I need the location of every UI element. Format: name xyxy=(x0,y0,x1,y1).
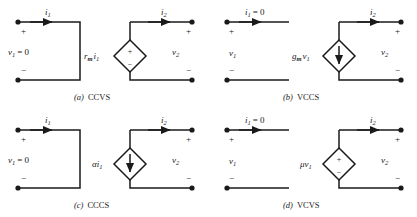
polarity-minus-right: − xyxy=(186,65,191,75)
vccs-right-port: i2 + − v2 xyxy=(339,7,404,83)
panel-vcvs: i1= 0 + − v1 i2 + − v2 + − μv1 (d)VCVS xyxy=(224,115,403,210)
caption-vccs: (b)VCCS xyxy=(283,92,319,102)
polarity-minus-right: − xyxy=(395,173,400,183)
terminal-dot-top-left xyxy=(224,19,229,24)
polarity-minus-left: − xyxy=(21,65,26,75)
terminal-dot-top-left xyxy=(224,127,229,132)
vccs-source-symbol: gmv1 xyxy=(292,40,355,72)
cccs-right-port: i2 + − v2 xyxy=(130,115,195,191)
terminal-dot-bottom-left xyxy=(224,185,229,190)
source-gain-label: μv1 xyxy=(299,159,312,170)
cccs-source-symbol: αi1 xyxy=(92,148,146,180)
output-wire-bottom xyxy=(339,180,401,188)
source-gain-label: gmv1 xyxy=(292,51,310,62)
ccvs-left-port: i1 + − v1= 0 xyxy=(8,7,80,83)
polarity-plus-right: + xyxy=(395,26,400,36)
terminal-dot-top-right xyxy=(398,127,403,132)
terminal-dot-top-left xyxy=(15,19,20,24)
ccvs-right-port: i2 + − v2 xyxy=(130,7,195,83)
current-label-i2: i2 xyxy=(370,7,377,18)
source-plus-sign: + xyxy=(337,155,342,164)
cccs-left-port: i1 + − v1= 0 xyxy=(8,115,80,191)
caption-vcvs: (d)VCVS xyxy=(283,200,320,210)
polarity-minus-right: − xyxy=(186,173,191,183)
vcvs-right-port: i2 + − v2 xyxy=(339,115,404,191)
current-label-i2: i2 xyxy=(161,115,168,126)
voltage-label-v2: v2 xyxy=(172,155,180,166)
terminal-dot-bottom-right xyxy=(189,185,194,190)
polarity-minus-left: − xyxy=(21,173,26,183)
current-label-i1: i1= 0 xyxy=(245,115,265,126)
voltage-label-v2: v2 xyxy=(172,47,180,58)
terminal-dot-top-right xyxy=(189,19,194,24)
polarity-plus-right: + xyxy=(186,26,191,36)
terminal-dot-bottom-right xyxy=(398,185,403,190)
dependent-sources-figure: i1 + − v1= 0 i2 + − v2 + − rmi1 (a)CCVS xyxy=(0,0,417,217)
voltage-label-v2: v2 xyxy=(381,47,389,58)
polarity-minus-left: − xyxy=(229,173,234,183)
vcvs-source-symbol: + − μv1 xyxy=(299,148,355,180)
voltage-label-v1: v1 xyxy=(229,156,236,167)
vcvs-left-port: i1= 0 + − v1 xyxy=(224,115,289,191)
current-label-i2: i2 xyxy=(161,7,168,18)
caption-ccvs: (a)CCVS xyxy=(74,92,110,102)
terminal-dot-bottom-left xyxy=(224,77,229,82)
current-label-i1: i1 xyxy=(45,115,51,126)
polarity-plus-right: + xyxy=(395,134,400,144)
ccvs-source-symbol: + − rmi1 xyxy=(84,40,146,72)
source-minus-sign: − xyxy=(128,60,133,69)
source-minus-sign: − xyxy=(337,168,342,177)
terminal-dot-bottom-left xyxy=(15,77,20,82)
polarity-minus-left: − xyxy=(229,65,234,75)
voltage-label-v1: v1 xyxy=(229,48,236,59)
current-label-i1: i1= 0 xyxy=(245,7,265,18)
polarity-plus-left: + xyxy=(229,26,234,36)
circuit-canvas: i1 + − v1= 0 i2 + − v2 + − rmi1 (a)CCVS xyxy=(0,0,417,217)
panel-vccs: i1= 0 + − v1 i2 + − v2 gmv1 (b)VCCS xyxy=(224,7,403,102)
caption-cccs: (c)CCCS xyxy=(74,200,109,210)
panel-cccs: i1 + − v1= 0 i2 + − v2 αi1 (c)CCCS xyxy=(8,115,195,210)
source-gain-label: rmi1 xyxy=(84,51,99,62)
voltage-label-v1: v1= 0 xyxy=(8,47,30,58)
output-wire-bottom xyxy=(130,72,192,80)
polarity-plus-right: + xyxy=(186,134,191,144)
voltage-label-v2: v2 xyxy=(381,155,389,166)
vccs-left-port: i1= 0 + − v1 xyxy=(224,7,289,83)
polarity-plus-left: + xyxy=(229,134,234,144)
panel-ccvs: i1 + − v1= 0 i2 + − v2 + − rmi1 (a)CCVS xyxy=(8,7,195,102)
polarity-plus-left: + xyxy=(21,26,26,36)
output-wire-bottom xyxy=(130,180,192,188)
polarity-minus-right: − xyxy=(395,65,400,75)
current-label-i1: i1 xyxy=(45,7,51,18)
current-label-i2: i2 xyxy=(370,115,377,126)
terminal-dot-top-left xyxy=(15,127,20,132)
output-wire-bottom xyxy=(339,72,401,80)
terminal-dot-top-right xyxy=(398,19,403,24)
source-plus-sign: + xyxy=(128,47,133,56)
terminal-dot-bottom-left xyxy=(15,185,20,190)
voltage-label-v1: v1= 0 xyxy=(8,155,30,166)
terminal-dot-top-right xyxy=(189,127,194,132)
terminal-dot-bottom-right xyxy=(189,77,194,82)
terminal-dot-bottom-right xyxy=(398,77,403,82)
polarity-plus-left: + xyxy=(21,134,26,144)
source-gain-label: αi1 xyxy=(92,159,103,170)
